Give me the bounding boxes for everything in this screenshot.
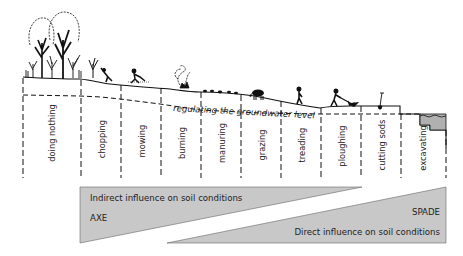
trees-illustration (26, 12, 81, 79)
grazing-cow-icon (249, 90, 264, 101)
indirect-influence-label: Indirect influence on soil conditions (90, 193, 243, 203)
shrub-icon (26, 55, 81, 78)
person-ploughing-icon (331, 89, 357, 106)
activity-label-manuring: manuring (217, 123, 227, 163)
chopping-illustration (89, 58, 112, 82)
soil-management-diagram: regulating the groundwater level doing n… (0, 0, 463, 256)
activity-label-mowing: mowing (137, 125, 147, 158)
tree-icon (49, 12, 79, 79)
spade-icon (378, 93, 384, 109)
activity-label-burning: burning (177, 127, 187, 159)
activity-label-cutting-sods: cutting sods (377, 120, 387, 171)
direct-influence-label: Direct influence on soil conditions (294, 227, 440, 237)
groundwater-label: regulating the groundwater level (173, 103, 316, 120)
activity-label-grazing: grazing (257, 130, 267, 161)
person-mowing-icon (128, 69, 150, 83)
person-walking-icon (297, 87, 302, 104)
activity-label-doing-nothing: doing nothing (47, 104, 57, 162)
axe-label: AXE (90, 213, 107, 223)
person-chopping-icon (101, 68, 112, 82)
activity-label-excavating: excavating (418, 125, 428, 170)
shrub-icon (89, 58, 98, 78)
burning-fire-icon (175, 66, 191, 88)
activity-label-ploughing: ploughing (337, 125, 347, 166)
activity-label-treading: treading (297, 128, 307, 163)
spade-label: SPADE (412, 207, 440, 217)
activity-label-chopping: chopping (97, 120, 107, 158)
